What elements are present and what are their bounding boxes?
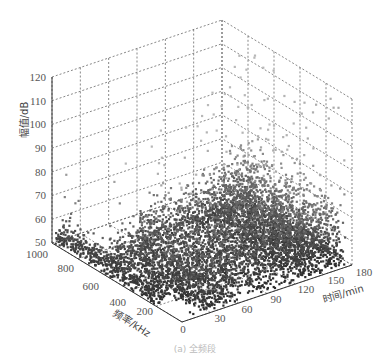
z-tick: 60 [35, 213, 47, 225]
grid-line [52, 67, 222, 124]
z-tick: 80 [35, 166, 47, 178]
z-tick: 110 [30, 95, 47, 107]
x-tick: 30 [215, 312, 227, 324]
grid-line [222, 44, 352, 123]
z-tick: 100 [30, 118, 47, 130]
z-axis-label: 幅值/dB [18, 102, 30, 139]
z-axis-ticks: 120 110 100 90 80 70 60 50 [30, 71, 47, 248]
scatter-points [55, 55, 347, 316]
x-tick: 150 [328, 274, 345, 286]
x-tick: 90 [271, 293, 283, 305]
grid-line [52, 115, 222, 172]
3d-scatter-chart: 120 110 100 90 80 70 60 50 1000 800 600 … [0, 0, 387, 356]
z-tick: 70 [35, 189, 47, 201]
y-tick: 600 [83, 280, 100, 292]
x-tick: 120 [298, 283, 315, 295]
figure-caption: (a) 全频段 [174, 343, 216, 354]
x-tick: 60 [242, 303, 254, 315]
y-tick: 400 [110, 296, 127, 308]
grid-line [222, 91, 352, 170]
y-tick: 200 [137, 305, 154, 317]
y-tick: 800 [58, 262, 75, 274]
y-tick: 1000 [26, 248, 49, 260]
x-tick: 180 [356, 266, 373, 278]
y-tick: 0 [180, 323, 186, 335]
grid-line [52, 139, 222, 196]
grid-line [52, 162, 222, 219]
z-tick: 50 [35, 236, 47, 248]
grid-line [52, 91, 222, 148]
grid-line [52, 20, 222, 77]
grid-line [222, 20, 352, 99]
z-tick: 90 [35, 142, 47, 154]
z-tick: 120 [30, 71, 47, 83]
grid-line [52, 44, 222, 101]
